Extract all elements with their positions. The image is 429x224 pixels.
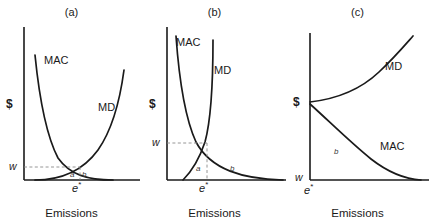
panel-b-curve-mac — [176, 36, 283, 180]
panel-c-x-axis-title: Emissions — [286, 206, 429, 220]
panel-c-area-b: b — [334, 147, 338, 156]
panel-a-y-tick-w: w — [9, 161, 17, 172]
panel-c-label-mac: MAC — [380, 140, 404, 152]
panel-a-y-axis-label: $ — [6, 98, 13, 110]
panel-b-area-a: a — [196, 164, 200, 173]
panel-a: (a) $ w MAC MD a b e* Emissions — [0, 0, 143, 224]
panel-c-y-tick-w: w — [295, 172, 303, 183]
panel-a-label-mac: MAC — [44, 54, 68, 66]
panel-a-area-b: b — [82, 170, 86, 179]
panel-a-x-tick-star: * — [78, 180, 81, 189]
panel-a-curve-md — [35, 70, 124, 180]
panel-a-x-tick-estar: e* — [72, 182, 81, 194]
panel-b-x-axis-title: Emissions — [143, 206, 286, 220]
figure-three-panel-mac-md: (a) $ w MAC MD a b e* Emissions (b) — [0, 0, 429, 224]
panel-c-x-tick-estar: e* — [304, 184, 313, 196]
panel-c-label-md: MD — [385, 60, 402, 72]
panel-b-x-tick-estar: e* — [199, 182, 208, 194]
panel-b-label-md: MD — [214, 64, 231, 76]
panel-b-plot — [143, 0, 286, 224]
panel-c-y-axis-label: $ — [293, 96, 300, 108]
panel-b-area-b: b — [230, 164, 234, 173]
panel-c-x-tick-star: * — [310, 182, 313, 191]
panel-b-label-mac: MAC — [176, 36, 200, 48]
panel-a-x-axis-title: Emissions — [0, 206, 143, 220]
panel-b-x-tick-star: * — [205, 180, 208, 189]
panel-a-curve-mac — [35, 55, 113, 180]
panel-a-label-md: MD — [98, 101, 115, 113]
panel-b-y-tick-w: w — [152, 137, 160, 148]
panel-c: (c) $ w MD MAC b e* Emissions — [286, 0, 429, 224]
panel-a-area-a: a — [70, 170, 74, 179]
panel-b: (b) $ w MAC MD a b e* Emissions — [143, 0, 286, 224]
panel-b-y-axis-label: $ — [149, 98, 156, 110]
